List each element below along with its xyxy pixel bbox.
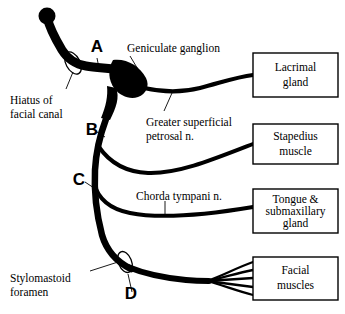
leader-hiatus-of-facial-canal	[66, 72, 73, 89]
stapedius-branch	[99, 144, 253, 173]
leader-stylomastoid-foramen	[90, 262, 118, 271]
target-box-label-line: muscles	[277, 279, 315, 291]
facial-nerve-diagram: Lacrimal gland Stapedius muscle Tongue &…	[0, 0, 345, 314]
letter-marker-b: B	[86, 120, 98, 139]
label-greater-superficial-petrosal-line2: petrosal n.	[146, 130, 194, 143]
letter-marker-c: C	[73, 170, 85, 189]
target-box-label-line: Facial	[281, 264, 309, 276]
target-box-label-line: gland	[283, 217, 309, 230]
diagram-canvas: Lacrimal gland Stapedius muscle Tongue &…	[0, 0, 345, 314]
nerve-segment-a-labyrinthine	[47, 17, 120, 70]
letter-marker-d: D	[125, 284, 137, 303]
letter-marker-a: A	[91, 37, 103, 56]
label-hiatus-of-facial-canal-line1: Hiatus of	[10, 94, 53, 106]
ganglion-to-trunk-taper	[101, 86, 118, 120]
label-geniculate-ganglion: Geniculate ganglion	[127, 42, 220, 55]
target-box-label-line: gland	[283, 76, 309, 89]
leader-greater-superficial-petrosal	[164, 93, 172, 111]
nerve-segment-d-extracranial	[128, 267, 209, 281]
label-greater-superficial-petrosal-line1: Greater superficial	[146, 116, 232, 129]
target-box-lacrimal-gland[interactable]: Lacrimal gland	[253, 53, 338, 97]
facial-muscle-branch-fan	[207, 262, 253, 295]
target-box-stapedius-muscle[interactable]: Stapedius muscle	[253, 124, 338, 164]
target-box-tongue-and-submaxillary-gland[interactable]: Tongue & submaxillary gland	[253, 189, 338, 233]
target-box-label-line: Stapedius	[273, 130, 318, 143]
label-stylomastoid-foramen-line1: Stylomastoid	[10, 272, 71, 285]
label-stylomastoid-foramen-line2: foramen	[10, 286, 49, 298]
label-hiatus-of-facial-canal-line2: facial canal	[10, 108, 63, 120]
target-box-label-line: muscle	[279, 145, 312, 157]
greater-superficial-petrosal-branch	[144, 75, 253, 91]
target-box-facial-muscles[interactable]: Facial muscles	[253, 257, 338, 300]
target-box-label-line: Lacrimal	[275, 61, 317, 73]
label-chorda-tympani: Chorda tympani n.	[136, 190, 222, 203]
